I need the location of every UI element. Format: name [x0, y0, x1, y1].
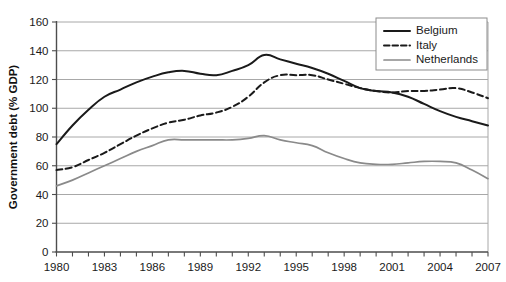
y-tick-label: 80	[36, 131, 49, 143]
y-tick-label: 20	[36, 217, 49, 229]
y-tick-label: 60	[36, 160, 49, 172]
legend-label-netherlands: Netherlands	[416, 53, 478, 65]
x-tick-label: 1995	[283, 261, 309, 273]
x-tick-label: 1992	[235, 261, 261, 273]
x-tick-label: 1986	[140, 261, 166, 273]
x-tick-label: 2004	[427, 261, 453, 273]
y-tick-label: 160	[29, 16, 48, 28]
x-tick-label: 2001	[379, 261, 405, 273]
y-tick-label: 140	[29, 45, 48, 57]
y-tick-label: 120	[29, 74, 48, 86]
x-tick-label: 1998	[331, 261, 357, 273]
chart-figure: 020406080100120140160 198019831986198919…	[0, 0, 506, 282]
y-axis-ticks: 020406080100120140160	[29, 16, 56, 258]
x-axis-ticks: 1980198319861989199219951998200120042007	[44, 252, 501, 273]
y-tick-label: 100	[29, 102, 48, 114]
x-tick-label: 1983	[92, 261, 118, 273]
y-tick-label: 40	[36, 189, 49, 201]
x-tick-label: 2007	[475, 261, 501, 273]
legend-label-italy: Italy	[416, 39, 437, 51]
x-tick-label: 1989	[188, 261, 214, 273]
y-tick-label: 0	[42, 246, 48, 258]
legend-label-belgium: Belgium	[416, 24, 458, 36]
x-tick-label: 1980	[44, 261, 70, 273]
chart-legend: BelgiumItalyNetherlands	[376, 18, 487, 70]
line-chart: 020406080100120140160 198019831986198919…	[0, 0, 506, 282]
y-axis-title: Government debt (% GDP)	[7, 65, 19, 210]
